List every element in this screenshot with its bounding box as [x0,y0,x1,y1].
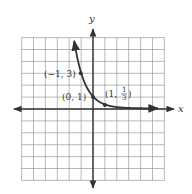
label-point-1-third-den: 3 [122,94,126,102]
y-axis-label: y [88,13,95,24]
point-neg1-3 [79,71,83,75]
label-point-1-third-suffix: ) [128,89,132,99]
label-point-neg1-3: (−1, 3) [44,69,76,79]
graph-canvas: (−1, 3) (0, 1) (1, 1 3 ) x y [0,0,192,194]
label-point-1-third-num: 1 [122,86,126,94]
label-point-1-third-prefix: (1, [105,89,117,99]
point-0-1 [91,95,95,99]
point-1-third [103,103,107,107]
x-axis-label: x [178,103,184,114]
label-point-0-1: (0, 1) [62,92,86,102]
